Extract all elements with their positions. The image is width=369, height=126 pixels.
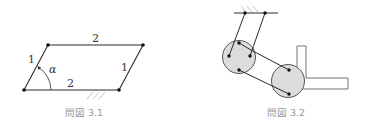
label-bottom-side: 2 — [67, 77, 74, 90]
label-right-side: 1 — [121, 61, 128, 74]
ground-hatch-icon — [241, 6, 258, 12]
arrow-head-icon — [38, 66, 42, 70]
label-left-side: 1 — [28, 53, 35, 66]
figure-3-2: 問図 3.2 — [223, 6, 349, 118]
caption-3-1: 問図 3.1 — [65, 107, 103, 118]
figure-canvas: 1 2 1 2 α 問図 3.1 — [0, 0, 369, 126]
ground-hatch-icon — [87, 92, 105, 99]
figure-3-1: 1 2 1 2 α 問図 3.1 — [22, 32, 145, 118]
caption-3-2: 問図 3.2 — [267, 107, 305, 118]
label-top-side: 2 — [92, 32, 99, 45]
label-angle-alpha: α — [49, 63, 57, 76]
